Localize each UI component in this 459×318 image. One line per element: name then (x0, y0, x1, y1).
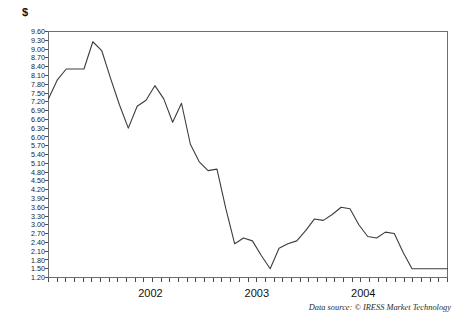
y-axis-tick-label: 8.10 (31, 71, 45, 80)
y-axis-tick-label: 4.20 (31, 185, 45, 194)
y-axis-tick-label: 4.80 (31, 168, 45, 177)
y-axis-tick-label: 6.30 (31, 124, 45, 133)
y-axis-tick-label: 6.60 (31, 115, 45, 124)
y-axis-tick-label: 7.20 (31, 97, 45, 106)
y-axis-tick-label: 9.60 (31, 27, 45, 36)
x-axis-tick-label: 2002 (138, 287, 162, 299)
y-axis-tick-label: 5.10 (31, 159, 45, 168)
y-axis-tick-labels: 9.609.309.008.708.408.107.807.507.206.90… (31, 27, 45, 282)
y-axis-tick-marks (45, 32, 49, 278)
y-axis-tick-label: 5.70 (31, 141, 45, 150)
y-axis-tick-label: 6.90 (31, 106, 45, 115)
plot-border (49, 32, 448, 278)
y-axis-tick-label: 5.40 (31, 150, 45, 159)
y-axis-tick-label: 1.20 (31, 273, 45, 282)
y-axis-tick-label: 3.00 (31, 220, 45, 229)
data-source-note: Data source: © IRESS Market Technology (309, 303, 451, 312)
y-axis-tick-label: 1.50 (31, 264, 45, 273)
x-axis-tick-label: 2003 (245, 287, 269, 299)
data-series-group (49, 42, 448, 269)
x-axis-tick-label: 2004 (351, 287, 375, 299)
price-line-chart: $ 9.609.309.008.708.408.107.807.507.206.… (0, 0, 459, 318)
y-axis-tick-label: 6.00 (31, 133, 45, 142)
plot-frame (49, 32, 448, 278)
y-axis-tick-label: 2.10 (31, 247, 45, 256)
series-line-share-price (49, 42, 448, 269)
x-axis-tick-labels: 200220032004 (138, 287, 375, 299)
y-axis-tick-label: 3.90 (31, 194, 45, 203)
y-axis-tick-label: 2.70 (31, 229, 45, 238)
x-axis-tick-marks (49, 278, 448, 282)
y-axis-tick-label: 9.00 (31, 45, 45, 54)
y-axis-tick-label: 1.80 (31, 256, 45, 265)
y-axis-tick-label: 3.60 (31, 203, 45, 212)
y-axis-tick-label: 8.40 (31, 62, 45, 71)
y-axis-tick-label: 7.50 (31, 89, 45, 98)
y-axis-tick-label: 8.70 (31, 53, 45, 62)
y-axis-tick-label: 4.50 (31, 176, 45, 185)
chart-plot-area: 9.609.309.008.708.408.107.807.507.206.90… (0, 0, 459, 318)
y-axis-tick-label: 9.30 (31, 36, 45, 45)
y-axis-tick-label: 3.30 (31, 212, 45, 221)
y-axis-tick-label: 2.40 (31, 238, 45, 247)
y-axis-tick-label: 7.80 (31, 80, 45, 89)
